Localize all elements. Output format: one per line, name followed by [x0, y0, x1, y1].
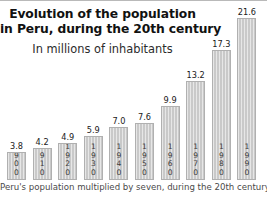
bar-year-digit: 0 [34, 169, 51, 177]
bar-group[interactable]: 7.01940 [109, 127, 128, 180]
bar-rect[interactable]: 1970 [186, 81, 205, 180]
bar-value-label: 7.0 [112, 117, 125, 126]
bar-year-label: 1980 [213, 143, 230, 177]
bar-value-label: 9.9 [164, 96, 177, 105]
bar-rect[interactable]: 1990 [237, 18, 256, 180]
bar-rect[interactable]: 1930 [84, 136, 103, 180]
bar-value-label: 17.3 [212, 40, 230, 49]
bar-year-label: 1910 [34, 148, 51, 177]
bar-value-label: 7.6 [138, 113, 151, 122]
bar-year-digit: 0 [213, 169, 230, 177]
bar-group[interactable]: 9.91960 [161, 106, 180, 180]
bar-year-label: 1990 [238, 143, 255, 177]
bar-year-digit: 0 [59, 169, 76, 177]
bar-year-digit: 0 [162, 169, 179, 177]
bar-rect[interactable]: 1960 [161, 106, 180, 180]
bar-year-label: 1940 [110, 143, 127, 177]
bar-rect[interactable]: 1920 [58, 143, 77, 180]
bar-year-digit: 0 [8, 169, 25, 177]
bar-rect[interactable]: 1900 [7, 152, 26, 180]
bar-value-label: 13.2 [187, 71, 205, 80]
bar-year-label: 1970 [187, 143, 204, 177]
bar-group[interactable]: 4.21910 [33, 148, 52, 180]
bar-year-label: 1900 [8, 152, 25, 177]
bar-year-label: 1930 [85, 143, 102, 177]
bar-rect[interactable]: 1910 [33, 148, 52, 180]
bar-value-label: 3.8 [10, 142, 23, 151]
bar-year-digit: 0 [85, 169, 102, 177]
bar-value-label: 4.2 [36, 138, 49, 147]
bar-year-label: 1920 [59, 143, 76, 177]
bar-value-label: 21.6 [238, 8, 256, 17]
bar-rect[interactable]: 1980 [212, 50, 231, 180]
bar-group[interactable]: 4.91920 [58, 143, 77, 180]
plot-area: 3.819004.219104.919205.919307.019407.619… [0, 0, 267, 180]
bar-group[interactable]: 13.21970 [186, 81, 205, 180]
bar-year-digit: 0 [238, 169, 255, 177]
bar-year-digit: 0 [136, 169, 153, 177]
bar-year-digit: 0 [187, 169, 204, 177]
bar-year-digit: 0 [110, 169, 127, 177]
bar-group[interactable]: 3.81900 [7, 152, 26, 180]
bar-value-label: 5.9 [87, 126, 100, 135]
bar-year-label: 1950 [136, 143, 153, 177]
chart-caption: Peru's population multiplied by seven, d… [0, 182, 267, 193]
bar-group[interactable]: 5.91930 [84, 136, 103, 180]
bar-group[interactable]: 21.61990 [237, 18, 256, 180]
bar-group[interactable]: 17.31980 [212, 50, 231, 180]
population-bar-chart: Evolution of the population in Peru, dur… [0, 0, 267, 198]
bar-rect[interactable]: 1940 [109, 127, 128, 180]
bar-rect[interactable]: 1950 [135, 123, 154, 180]
bar-value-label: 4.9 [61, 133, 74, 142]
bar-year-label: 1960 [162, 143, 179, 177]
bar-group[interactable]: 7.61950 [135, 123, 154, 180]
